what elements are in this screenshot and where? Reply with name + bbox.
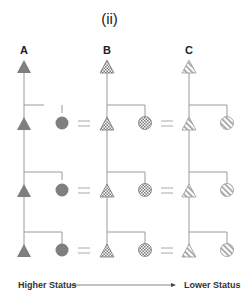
circle-icon: [139, 184, 152, 197]
circle-icon: [139, 244, 152, 257]
triangle-icon: [100, 184, 114, 197]
column-c: [182, 60, 234, 257]
circle-icon: [56, 244, 69, 257]
circle-icon: [221, 117, 234, 130]
triangle-icon: [100, 244, 114, 257]
equals-sign: [161, 121, 173, 253]
triangle-icon: [182, 244, 196, 257]
column-a: [17, 60, 69, 257]
circle-icon: [56, 184, 69, 197]
legend-higher-status: Higher Status: [18, 280, 77, 290]
triangle-icon: [100, 117, 114, 130]
circle-icon: [221, 244, 234, 257]
triangle-icon: [182, 184, 196, 197]
status-arrow: [70, 283, 176, 287]
triangle-icon: [182, 117, 196, 130]
triangle-icon: [17, 244, 31, 257]
triangle-icon: [17, 117, 31, 130]
circle-icon: [56, 117, 69, 130]
legend-lower-status: Lower Status: [184, 280, 241, 290]
triangle-icon: [17, 60, 31, 73]
column-b: [100, 60, 152, 257]
circle-icon: [221, 184, 234, 197]
kinship-diagram: [0, 0, 247, 295]
circle-icon: [139, 117, 152, 130]
equals-sign: [78, 121, 90, 253]
triangle-icon: [182, 60, 196, 73]
arrowhead-icon: [171, 283, 176, 287]
triangle-icon: [100, 60, 114, 73]
triangle-icon: [17, 184, 31, 197]
